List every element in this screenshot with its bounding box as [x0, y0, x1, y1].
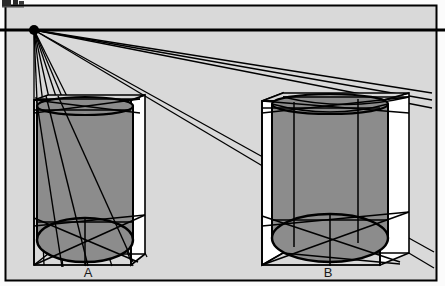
cylinder-group-a: A	[34, 95, 145, 280]
cylinder-a-label: A	[84, 265, 93, 280]
cylinder-group-b: B	[262, 93, 409, 280]
vanishing-point-marker	[29, 25, 39, 35]
scan-artifact	[2, 0, 24, 8]
diagram-canvas: A	[0, 0, 445, 286]
perspective-cylinder-diagram: A	[0, 0, 445, 286]
cylinder-b-label: B	[324, 265, 333, 280]
